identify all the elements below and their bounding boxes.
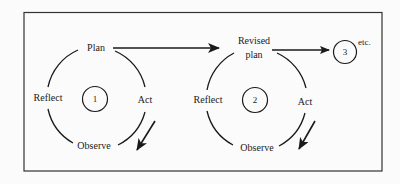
cycle-2-act-label: Act (298, 96, 312, 108)
cycle-1-plan-label: Plan (87, 42, 105, 54)
cycle-1-reflect-label: Reflect (34, 92, 63, 104)
cycle-2-plan-label-line1: Revised (238, 35, 270, 47)
cycle-2-plan-label-line2: plan (245, 49, 262, 61)
cycle-2-reflect-label: Reflect (194, 94, 223, 106)
cycle-2-progress-arrow (299, 121, 315, 149)
cycle-1-act-label: Act (138, 94, 152, 106)
cycle-2-number: 2 (253, 94, 258, 106)
cycle-3-number: 3 (343, 46, 348, 58)
cycle-1-number: 1 (93, 93, 98, 105)
cycle-1-observe-label: Observe (77, 140, 110, 152)
continuation-label: etc. (358, 36, 371, 48)
cycle-2-observe-label: Observe (240, 142, 273, 154)
